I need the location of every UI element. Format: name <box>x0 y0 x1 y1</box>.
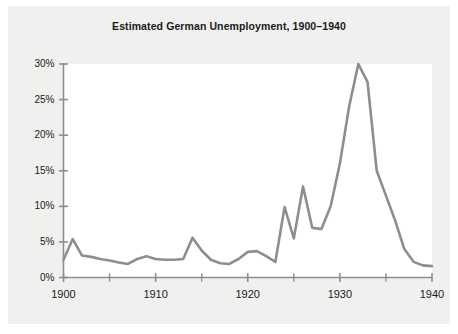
y-tick-label-30%: 30% <box>34 58 54 69</box>
x-tick-label-1900: 1900 <box>51 288 75 300</box>
y-tick-label-25%: 25% <box>34 94 54 105</box>
y-tick-label-15%: 15% <box>34 165 54 176</box>
x-tick-label-1910: 1910 <box>143 288 167 300</box>
chart-figure: Estimated German Unemployment, 1900–1940… <box>0 0 458 334</box>
y-tick-label-10%: 10% <box>34 200 54 211</box>
y-axis-tick-labels: 0%5%10%15%20%25%30% <box>34 58 54 283</box>
x-tick-label-1930: 1930 <box>328 288 352 300</box>
line-chart-plot: 0%5%10%15%20%25%30% 19001910192019301940 <box>0 0 458 334</box>
y-tick-label-5%: 5% <box>40 236 55 247</box>
x-axis: 19001910192019301940 <box>51 273 444 300</box>
x-tick-label-1920: 1920 <box>236 288 260 300</box>
y-tick-label-0%: 0% <box>40 272 55 283</box>
x-tick-label-1940: 1940 <box>420 288 444 300</box>
y-tick-label-20%: 20% <box>34 129 54 140</box>
y-axis: 0%5%10%15%20%25%30% <box>34 58 68 283</box>
x-axis-tick-labels: 19001910192019301940 <box>51 288 444 300</box>
